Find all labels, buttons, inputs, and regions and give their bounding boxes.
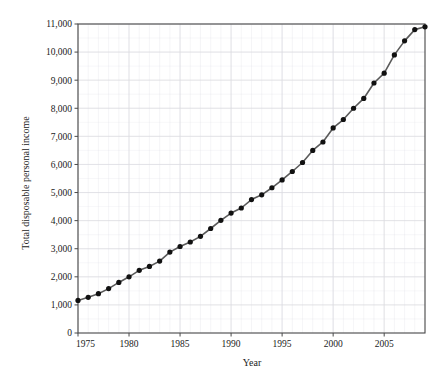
data-point [198,234,203,239]
y-tick-label: 7,000 [51,132,73,142]
data-point [106,286,111,291]
data-point [116,280,121,285]
x-axis-tick-labels: 1975198019851990199520002005 [76,339,394,349]
y-tick-label: 8,000 [51,104,73,114]
data-point [300,160,305,165]
data-point [218,218,223,223]
y-tick-label: 0 [67,328,72,338]
data-point [249,197,254,202]
data-point [392,52,397,57]
data-point [280,177,285,182]
y-tick-label: 5,000 [51,188,73,198]
y-tick-label: 9,000 [51,76,73,86]
y-axis-title: Total disposable personal income [20,116,31,250]
data-point [341,117,346,122]
chart-figure: 01,0002,0003,0004,0005,0006,0007,0008,00… [0,0,445,383]
data-point [126,274,131,279]
x-tick-label: 1975 [76,339,95,349]
data-point [137,268,142,273]
minor-gridlines [78,24,425,333]
data-point [177,244,182,249]
y-tick-label: 3,000 [51,244,73,254]
data-point [361,96,366,101]
data-point [310,148,315,153]
data-point [75,298,80,303]
y-tick-label: 10,000 [46,47,72,57]
data-point [320,139,325,144]
data-point [422,24,427,29]
data-point [382,71,387,76]
x-tick-label: 1980 [120,339,139,349]
line-chart: 01,0002,0003,0004,0005,0006,0007,0008,00… [0,0,445,383]
y-tick-label: 6,000 [51,160,73,170]
data-point [351,106,356,111]
data-point [96,291,101,296]
y-tick-label: 4,000 [51,216,73,226]
x-axis-title: Year [243,357,262,368]
x-tick-label: 2005 [375,339,394,349]
x-tick-label: 1990 [222,339,241,349]
data-point [188,239,193,244]
data-point [228,210,233,215]
x-tick-label: 1995 [273,339,292,349]
y-axis-tick-labels: 01,0002,0003,0004,0005,0006,0007,0008,00… [46,19,72,338]
x-tick-label: 1985 [171,339,190,349]
data-point [290,169,295,174]
data-point [259,192,264,197]
data-point [157,258,162,263]
x-tick-label: 2000 [324,339,343,349]
data-point [331,125,336,130]
data-point [402,38,407,43]
data-point [147,264,152,269]
data-point [239,205,244,210]
data-point [86,295,91,300]
y-tick-label: 1,000 [51,300,73,310]
data-point [167,250,172,255]
y-tick-label: 11,000 [46,19,72,29]
data-point [269,185,274,190]
data-point [208,226,213,231]
y-tick-label: 2,000 [51,272,73,282]
data-point [412,27,417,32]
data-point [371,80,376,85]
